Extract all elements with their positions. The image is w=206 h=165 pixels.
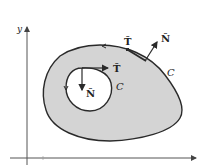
outer-tangent-point (126, 48, 129, 51)
inner-curve-label: C (116, 81, 124, 92)
region-with-hole-diagram: y T̂ N̂ C T̂ N̂ C (0, 0, 206, 165)
inner-normal-label: N̂ (86, 88, 95, 99)
diagram-canvas: y T̂ N̂ C T̂ N̂ C (0, 0, 206, 165)
inner-tangent-label: T̂ (113, 63, 121, 74)
shaded-region (43, 45, 182, 141)
outer-normal-vector (145, 42, 157, 61)
y-axis-label: y (16, 24, 23, 34)
outer-curve-label: C (167, 67, 175, 78)
outer-tangent-label: T̂ (124, 36, 132, 47)
outer-normal-label: N̂ (161, 33, 170, 44)
